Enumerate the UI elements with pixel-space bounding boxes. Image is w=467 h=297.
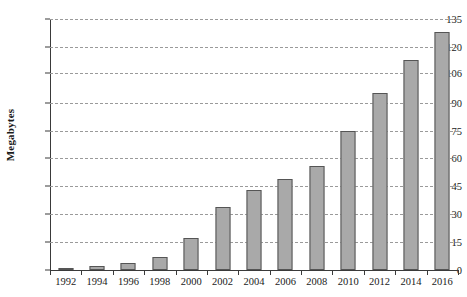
x-tick-mark [301, 270, 302, 275]
gridline [50, 19, 458, 20]
gridline [50, 158, 458, 159]
x-tick-label: 1994 [87, 276, 108, 287]
bar-2004 [247, 190, 262, 270]
x-tick-label: 2006 [275, 276, 296, 287]
bar-1998 [152, 257, 167, 270]
bar-2002 [215, 207, 230, 270]
x-tick-mark [176, 270, 177, 275]
x-tick-mark [427, 270, 428, 275]
x-tick-mark [207, 270, 208, 275]
bar-chart: Megabytes 0153045607590106120135 1992199… [0, 0, 467, 297]
x-tick-label: 2012 [369, 276, 390, 287]
x-tick-mark [458, 270, 459, 275]
x-tick-label: 1998 [149, 276, 170, 287]
x-tick-label: 2010 [338, 276, 359, 287]
y-axis-title-label: Megabytes [4, 109, 16, 162]
x-tick-mark [81, 270, 82, 275]
x-tick-label: 1996 [118, 276, 139, 287]
gridline [50, 103, 458, 104]
x-tick-label: 2000 [181, 276, 202, 287]
bar-1994 [90, 266, 105, 270]
bar-2016 [435, 32, 450, 270]
gridline [50, 186, 458, 187]
gridline [50, 47, 458, 48]
x-tick-mark [144, 270, 145, 275]
x-tick-mark [395, 270, 396, 275]
x-tick-label: 2008 [306, 276, 327, 287]
bar-2014 [403, 60, 418, 270]
x-tick-label: 2016 [432, 276, 453, 287]
bar-2006 [278, 179, 293, 270]
plot-area [50, 19, 458, 270]
x-tick-mark [270, 270, 271, 275]
x-tick-mark [332, 270, 333, 275]
bar-1996 [121, 263, 136, 270]
gridline [50, 131, 458, 132]
gridline [50, 73, 458, 74]
x-tick-label: 2014 [400, 276, 421, 287]
x-tick-mark [113, 270, 114, 275]
x-tick-mark [50, 270, 51, 275]
y-axis-title: Megabytes [0, 0, 20, 270]
bar-2012 [372, 93, 387, 270]
x-tick-label: 2004 [244, 276, 265, 287]
x-tick-mark [364, 270, 365, 275]
x-tick-label: 1992 [55, 276, 76, 287]
bar-1992 [58, 268, 73, 270]
gridline [50, 270, 458, 271]
x-tick-label: 2002 [212, 276, 233, 287]
bar-2000 [184, 238, 199, 270]
bar-2010 [341, 131, 356, 270]
x-tick-mark [238, 270, 239, 275]
bar-2008 [309, 166, 324, 270]
